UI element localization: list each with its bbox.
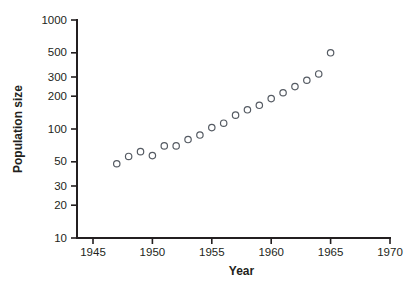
data-point bbox=[137, 148, 143, 154]
data-point bbox=[280, 90, 286, 96]
data-point bbox=[327, 50, 333, 56]
data-point bbox=[161, 143, 167, 149]
x-axis-title: Year bbox=[229, 264, 255, 278]
data-point bbox=[209, 124, 215, 130]
x-axis-tick-label: 1965 bbox=[318, 246, 344, 258]
y-axis-tick-label: 100 bbox=[48, 123, 67, 135]
x-axis-tick-label: 1970 bbox=[377, 246, 403, 258]
data-point bbox=[232, 112, 238, 118]
population-size-scatter-chart: 102030501002003005001000 194519501955196… bbox=[0, 0, 420, 296]
data-point bbox=[185, 136, 191, 142]
data-point bbox=[220, 120, 226, 126]
x-axis-tick-label: 1950 bbox=[140, 246, 166, 258]
data-point bbox=[173, 143, 179, 149]
y-axis-tick-label: 10 bbox=[54, 232, 67, 244]
y-axis: 102030501002003005001000 bbox=[41, 14, 77, 244]
data-point bbox=[268, 95, 274, 101]
data-point bbox=[304, 77, 310, 83]
y-axis-tick-label: 30 bbox=[54, 180, 67, 192]
y-axis-tick-label: 20 bbox=[54, 199, 67, 211]
data-point bbox=[244, 107, 250, 113]
data-point bbox=[125, 153, 131, 159]
y-axis-tick-label: 200 bbox=[48, 90, 67, 102]
data-point bbox=[197, 132, 203, 138]
y-axis-title: Population size bbox=[11, 85, 25, 173]
x-axis-tick-label: 1960 bbox=[258, 246, 284, 258]
chart-canvas: 102030501002003005001000 194519501955196… bbox=[0, 0, 420, 296]
y-axis-tick-label: 300 bbox=[48, 71, 67, 83]
data-point bbox=[256, 102, 262, 108]
y-axis-tick-label: 50 bbox=[54, 155, 67, 167]
data-points-layer bbox=[114, 50, 334, 167]
data-point bbox=[149, 152, 155, 158]
x-axis-tick-label: 1945 bbox=[80, 246, 106, 258]
data-point bbox=[316, 71, 322, 77]
x-axis: 194519501955196019651970 bbox=[77, 238, 403, 258]
data-point bbox=[114, 161, 120, 167]
y-axis-tick-label: 1000 bbox=[41, 14, 67, 26]
y-axis-tick-label: 500 bbox=[48, 46, 67, 58]
data-point bbox=[292, 83, 298, 89]
x-axis-tick-label: 1955 bbox=[199, 246, 225, 258]
